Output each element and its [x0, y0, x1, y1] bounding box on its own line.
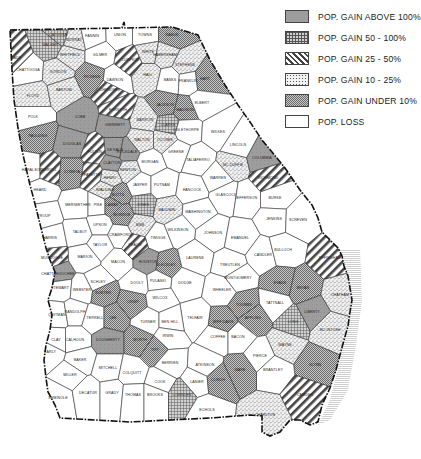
county-label: BURKE	[269, 196, 282, 200]
legend-swatch-10-25	[285, 73, 309, 86]
county-label: LEE	[109, 316, 117, 320]
legend-label: POP. LOSS	[318, 117, 365, 127]
county-label: COOK	[155, 380, 166, 384]
county-label: GRADY	[105, 391, 119, 395]
county-label: FANNIN	[85, 34, 99, 38]
county-label: MACON	[111, 260, 125, 264]
legend-item-25-50: POP. GAIN 25 - 50%	[285, 48, 382, 69]
county-label: DAWSON	[107, 78, 124, 82]
county-label: SPALDING	[96, 188, 115, 192]
county-label: BERRIEN	[162, 361, 179, 365]
county-label: LAURENS	[186, 256, 204, 260]
legend-swatch-loss	[285, 115, 309, 128]
county-label: MARION	[78, 255, 93, 259]
legend-item-under-10: POP. GAIN UNDER 10%	[285, 90, 382, 111]
county-label: JOHNSON	[204, 231, 223, 235]
county-label: WARREN	[210, 176, 227, 180]
county-label: HALL	[143, 73, 152, 77]
county-label: CLARKE	[161, 123, 176, 127]
county-label: TIFT	[151, 348, 160, 352]
county-label: WAYNE	[278, 343, 292, 347]
county-label: CARROLL	[39, 168, 57, 172]
map-legend: POP. GAIN ABOVE 100% POP. GAIN 50 - 100%…	[285, 6, 382, 132]
county-label: JEFF DAVIS	[212, 320, 234, 324]
county-label: TATTNALL	[266, 301, 284, 305]
county-label: CLAYTON	[103, 161, 121, 165]
county-label: MITCHELL	[99, 366, 118, 370]
county-label: TOWNS	[138, 33, 152, 37]
legend-swatch-25-50	[285, 52, 309, 65]
county-label: JACKSON	[156, 103, 174, 107]
county-label: CLAY	[51, 338, 61, 342]
county-label: TROUP	[37, 214, 51, 218]
county-label: DOUGLAS	[63, 142, 82, 146]
county-label: CRISP	[127, 300, 139, 304]
county-label: LINCOLN	[230, 143, 247, 147]
county-rabun	[159, 0, 265, 49]
county-label: TAYLOR	[93, 243, 108, 247]
county-label: MURRAY	[66, 38, 82, 42]
legend-label: POP. GAIN 50 - 100%	[318, 33, 406, 43]
county-label: RABUN	[165, 33, 178, 37]
county-label: CLINCH	[211, 378, 225, 382]
county-label: JASPER	[133, 183, 148, 187]
county-label: CHEROKEE	[100, 88, 121, 92]
county-label: FRANKLIN	[179, 79, 198, 83]
county-label: MC INTOSH	[320, 328, 341, 332]
county-label: STEPHENS	[175, 63, 196, 67]
county-label: COLUMBIA	[252, 156, 272, 160]
county-label: CHATTAHOOCHEE	[41, 272, 75, 276]
county-label: OCONEE	[157, 138, 174, 142]
county-label: PEACH	[129, 243, 142, 247]
county-label: PAULDING	[29, 134, 48, 138]
legend-swatch-under-10	[285, 94, 309, 107]
county-label: WORTH	[133, 338, 147, 342]
county-label: TALIAFERRO	[186, 158, 209, 162]
county-label: FLOYD	[27, 94, 40, 98]
county-label: WEBSTER	[73, 288, 92, 292]
county-label: RICHMOND	[258, 176, 279, 180]
county-label: DOOLY	[131, 281, 144, 285]
county-decatur	[72, 375, 100, 459]
county-label: PUTNAM	[154, 183, 170, 187]
county-label: COWETA	[64, 170, 81, 174]
county-label: WILCOX	[153, 296, 168, 300]
county-label: HARRIS	[43, 236, 58, 240]
legend-label: POP. GAIN 25 - 50%	[318, 54, 401, 64]
county-label: STEWART	[51, 286, 70, 290]
legend-swatch-50-100	[285, 31, 309, 44]
county-label: LANIER	[190, 380, 204, 384]
county-label: NEWTON	[120, 168, 137, 172]
county-label: BIBB	[136, 223, 145, 227]
county-label: COLQUITT	[123, 371, 143, 375]
legend-label: POP. GAIN ABOVE 100%	[318, 12, 421, 22]
county-label: WILKINSON	[167, 228, 188, 232]
county-label: GREENE	[168, 150, 184, 154]
county-label: MERIWETHER	[65, 203, 91, 207]
county-label: CHATTOOGA	[16, 68, 40, 72]
county-label: COBB	[75, 115, 86, 119]
county-label: PULASKI	[150, 279, 166, 283]
county-label: TWIGGS	[150, 236, 166, 240]
county-label: MUSCOGEE	[41, 256, 63, 260]
county-label: APPLING	[245, 316, 261, 320]
county-label: WALTON	[134, 138, 150, 142]
county-label: CAMDEN	[297, 393, 313, 397]
legend-item-50-100: POP. GAIN 50 - 100%	[285, 27, 382, 48]
county-label: RANDOLPH	[65, 310, 86, 314]
county-label: LONG	[288, 320, 299, 324]
county-label: PICKENS	[84, 75, 101, 79]
county-label: HANCOCK	[183, 188, 202, 192]
county-label: THOMAS	[125, 393, 141, 397]
county-label: MILLER	[63, 373, 77, 377]
county-label: OGLETHORPE	[173, 128, 199, 132]
county-stewart	[0, 279, 72, 302]
county-label: TOOMBS	[236, 303, 253, 307]
county-label: HENRY	[103, 176, 117, 180]
county-label: LOWNDES	[173, 393, 192, 397]
county-label: TELFAIR	[187, 316, 203, 320]
county-label: BRANTLEY	[263, 368, 283, 372]
county-label: JENKINS	[266, 217, 282, 221]
legend-item-above-100: POP. GAIN ABOVE 100%	[285, 6, 382, 27]
county-label: MONTGOMERY	[224, 276, 252, 280]
